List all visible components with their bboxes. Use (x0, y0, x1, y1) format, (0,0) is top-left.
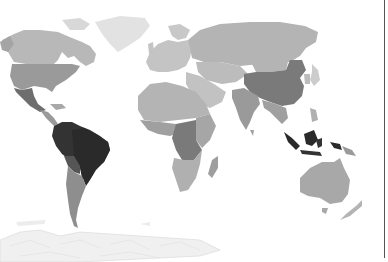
region-east-africa (196, 114, 216, 148)
region-united-states (10, 64, 80, 92)
region-korea (304, 74, 310, 84)
region-madagascar (208, 156, 218, 178)
region-sri-lanka (250, 130, 254, 136)
region-indonesia-java (300, 150, 322, 156)
region-indonesia-sumatra (284, 132, 300, 150)
region-mexico (14, 88, 46, 112)
region-australia (300, 158, 350, 204)
region-south-islands (16, 220, 150, 226)
region-greenland (95, 16, 150, 52)
region-antarctica (0, 230, 220, 262)
region-arctic-islands (62, 18, 90, 30)
region-philippines (310, 108, 318, 122)
region-indonesia-papua (330, 142, 342, 150)
region-tasmania (322, 208, 328, 214)
region-uk (148, 42, 154, 54)
region-russia (188, 22, 318, 66)
map-frame-right-border (384, 0, 385, 258)
region-indonesia-borneo (304, 130, 318, 146)
region-caribbean (50, 104, 66, 110)
region-papua-new-guinea (342, 146, 356, 156)
region-central-america (40, 110, 58, 126)
region-canada (2, 30, 96, 66)
region-japan (310, 64, 320, 86)
world-choropleth-map (0, 0, 388, 262)
region-scandinavia (168, 24, 190, 40)
region-new-zealand (340, 200, 362, 220)
